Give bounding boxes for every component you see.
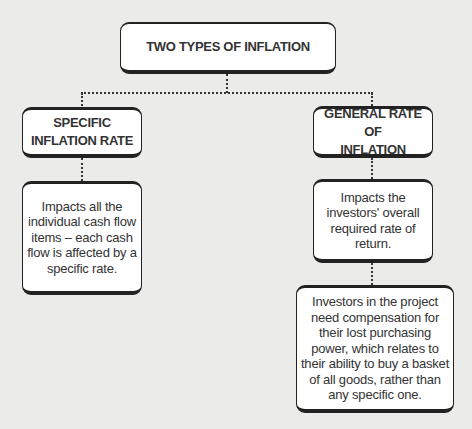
specific-heading-line2: INFLATION RATE — [31, 132, 133, 150]
diagram-title: TWO TYPES OF INFLATION — [146, 38, 310, 56]
specific-inflation-box: SPECIFIC INFLATION RATE — [22, 107, 142, 158]
title-box: TWO TYPES OF INFLATION — [120, 22, 336, 74]
specific-description-box: Impacts all the individual cash flow ite… — [22, 181, 142, 295]
general-inflation-heading: GENERAL RATE OF INFLATION — [314, 105, 432, 159]
connector-to-specific — [81, 93, 83, 106]
general-description-box: Impacts the investors' overall required … — [313, 179, 433, 263]
connector-general-desc-to-detail — [371, 263, 373, 285]
general-heading-line2: INFLATION — [314, 141, 432, 159]
specific-inflation-heading: SPECIFIC INFLATION RATE — [31, 114, 133, 150]
connector-title-down — [226, 74, 228, 93]
connector-specific-to-desc — [81, 158, 83, 181]
general-description: Impacts the investors' overall required … — [314, 190, 432, 252]
connector-general-to-desc — [371, 158, 373, 179]
specific-description: Impacts all the individual cash flow ite… — [23, 199, 141, 277]
general-heading-line1: GENERAL RATE OF — [314, 105, 432, 141]
general-detail-box: Investors in the project need compensati… — [296, 285, 454, 413]
connector-horizontal — [81, 92, 373, 94]
general-inflation-box: GENERAL RATE OF INFLATION — [313, 106, 433, 158]
general-detail: Investors in the project need compensati… — [297, 294, 453, 403]
specific-heading-line1: SPECIFIC — [31, 114, 133, 132]
